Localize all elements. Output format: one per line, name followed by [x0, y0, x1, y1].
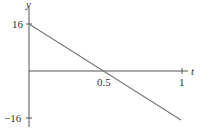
y-tick-label-neg16: −16 — [4, 112, 22, 124]
y-tick-label-16: 16 — [12, 18, 24, 30]
chart: y t 16 −16 0.5 1 — [0, 0, 205, 130]
t-tick-label-05: 0.5 — [97, 76, 111, 88]
t-tick-label-1: 1 — [179, 76, 185, 88]
y-axis-label: y — [25, 0, 31, 10]
t-axis-label: t — [191, 65, 195, 77]
series-line — [29, 24, 181, 120]
